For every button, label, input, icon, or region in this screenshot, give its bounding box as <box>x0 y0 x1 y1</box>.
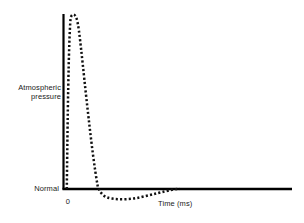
y-axis-title: Atmospheric pressure <box>0 83 61 101</box>
x-axis-title: Time (ms) <box>158 199 192 208</box>
baseline-normal-label: Normal <box>0 184 59 193</box>
blast-pressure-figure: Atmospheric pressure Normal 0 Time (ms) <box>0 0 304 223</box>
y-axis-title-line1: Atmospheric <box>18 83 61 92</box>
blast-pressure-curve <box>67 15 180 200</box>
origin-tick-label: 0 <box>62 197 74 206</box>
y-axis-title-line2: pressure <box>31 92 61 101</box>
